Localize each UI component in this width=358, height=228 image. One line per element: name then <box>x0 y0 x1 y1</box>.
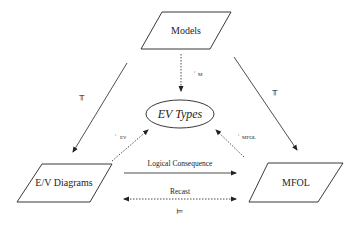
diagram-canvas: Models EV Types E/V Diagrams MFOL ⊨ ⊨ : … <box>0 0 358 228</box>
mfol-to-ev-types-label: MFOL <box>242 135 256 140</box>
node-ev-types-label: EV Types <box>157 107 203 121</box>
node-models-label: Models <box>171 25 201 36</box>
mfol-to-ev-types-marker: : <box>238 132 239 137</box>
edge-recast: Recast ⊨ <box>124 187 236 216</box>
logical-consequence-label: Logical Consequence <box>148 159 213 168</box>
node-mfol-label: MFOL <box>282 177 310 188</box>
models-entails-symbol-left: ⊨ <box>77 95 86 102</box>
edge-ev-diagrams-to-ev-types: : EV <box>112 130 148 161</box>
edge-models-to-ev-types: : M <box>181 54 203 91</box>
models-to-ev-types-marker: : <box>194 69 195 74</box>
ev-diagrams-to-ev-types-label: EV <box>120 135 127 140</box>
edge-models-to-ev-diagrams: ⊨ <box>73 63 127 152</box>
node-mfol: MFOL <box>249 163 343 202</box>
node-ev-types: EV Types <box>146 100 214 128</box>
recast-label: Recast <box>170 187 191 196</box>
node-ev-diagrams: E/V Diagrams <box>17 164 112 202</box>
node-ev-diagrams-label: E/V Diagrams <box>35 177 92 188</box>
ev-diagrams-to-ev-types-marker: : <box>115 132 116 137</box>
node-models: Models <box>141 12 231 49</box>
models-to-ev-types-label: M <box>198 72 203 77</box>
recast-entails-symbol: ⊨ <box>177 207 184 216</box>
models-entails-symbol-right: ⊨ <box>270 90 279 97</box>
edge-logical-consequence: Logical Consequence <box>124 159 236 173</box>
edge-mfol-to-ev-types: : MFOL <box>216 130 256 157</box>
